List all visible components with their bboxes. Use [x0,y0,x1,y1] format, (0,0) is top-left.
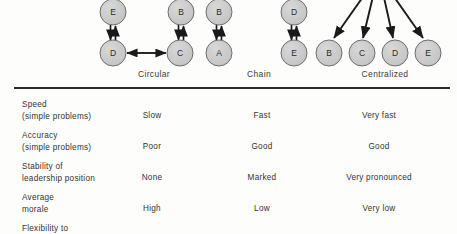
row-label-line2: leadership position [22,173,137,185]
row-label-line2: (simple problems) [22,142,137,154]
cell-chain: Marked [248,173,277,182]
node-label: B [178,7,184,17]
row-label: Speed (simple problems) [22,99,137,122]
cell-circular: None [142,173,163,182]
cell-circular: Slow [143,111,162,120]
node-chain-D: D [281,0,307,25]
centralized-network-edges [334,0,423,38]
cell-circular: High [143,204,161,213]
cell-chain: Fast [254,111,271,120]
table-row: Flexibility to [0,223,457,234]
node-circular-B: B [168,0,194,25]
row-label-line1: Flexibility to [22,224,68,233]
row-label-line1: Average [22,193,54,202]
node-chain-E: E [281,40,307,66]
row-label: Accuracy (simple problems) [22,130,137,153]
table-row: Average morale High Low Very low [0,192,457,222]
row-label-line1: Stability of [22,162,63,171]
node-label: B [326,48,332,58]
row-label-line1: Speed [22,100,47,109]
node-centralized-C: C [349,40,375,66]
node-label: A [216,48,222,58]
node-centralized-E: E [415,40,441,66]
node-circular-E: E [100,0,126,25]
row-label-line2: morale [22,204,137,216]
node-chain-A: A [206,40,232,66]
network-label-chain: Chain [247,69,271,79]
table-row: Stability of leadership position None Ma… [0,161,457,191]
node-label: E [425,48,431,58]
node-circular-C: C [167,40,193,66]
node-chain-B: B [206,0,232,25]
node-label: D [291,7,297,17]
communication-networks-diagram: E B D C B A [0,0,457,86]
node-label: E [291,48,297,58]
table-row: Accuracy (simple problems) Poor Good Goo… [0,130,457,160]
row-label: Flexibility to [22,223,137,234]
row-label-line2: (simple problems) [22,111,137,123]
table-row: Speed (simple problems) Slow Fast Very f… [0,99,457,129]
comparison-table: Speed (simple problems) Slow Fast Very f… [0,89,457,234]
row-label: Stability of leadership position [22,161,137,184]
node-centralized-B: B [316,40,342,66]
cell-centralized: Very low [363,204,396,213]
network-label-centralized: Centralized [362,69,409,79]
node-label: C [359,48,365,58]
node-label: C [177,48,183,58]
row-label: Average morale [22,192,137,215]
node-label: E [110,7,116,17]
row-label-line1: Accuracy [22,131,58,140]
network-label-circular: Circular [138,69,170,79]
cell-circular: Poor [143,142,161,151]
figure-page: E B D C B A [0,0,457,234]
node-label: D [392,48,398,58]
cell-chain: Low [254,204,270,213]
cell-chain: Good [251,142,272,151]
cell-centralized: Very pronounced [346,173,412,182]
node-circular-D: D [100,40,126,66]
cell-centralized: Very fast [362,111,396,120]
node-centralized-D: D [382,40,408,66]
node-label: B [216,7,222,17]
cell-centralized: Good [368,142,389,151]
node-label: D [110,48,116,58]
